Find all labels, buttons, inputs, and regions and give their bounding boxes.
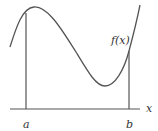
function-diagram: f(x) x a b bbox=[0, 0, 158, 131]
function-label: f(x) bbox=[110, 34, 130, 47]
lower-bound-label: a bbox=[23, 118, 30, 131]
x-axis-label: x bbox=[146, 102, 153, 115]
upper-bound-label: b bbox=[126, 118, 133, 131]
